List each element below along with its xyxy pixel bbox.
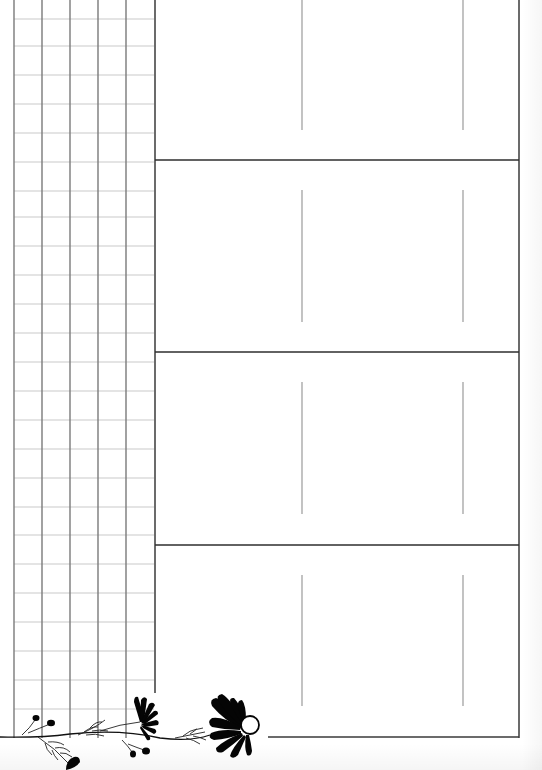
grid-vertical-lines [14,0,126,738]
section-4-column-lines [302,575,463,706]
page-edge-shadow [522,0,542,770]
section-2-column-lines [302,190,463,322]
planner-page [0,0,542,770]
grid-panel [14,0,154,738]
section-3-column-lines [302,382,463,514]
flower-center [241,716,259,734]
page-bottom-shadow [0,744,542,770]
grid-horizontal-lines [14,19,154,709]
section-1-column-lines [302,0,463,130]
planner-lines [0,0,542,770]
main-box [155,0,519,738]
